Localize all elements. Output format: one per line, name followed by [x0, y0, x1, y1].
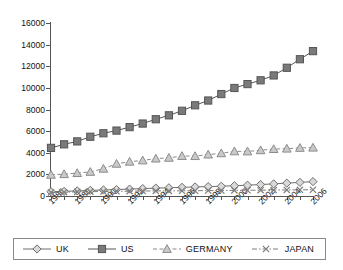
- data-point-marker: [204, 182, 212, 190]
- legend-item-us[interactable]: US: [87, 242, 134, 256]
- data-point-marker: [257, 77, 264, 84]
- data-point-marker: [152, 154, 161, 162]
- line-chart: 0200040006000800010000120001400016000 19…: [0, 0, 343, 270]
- legend-label-us: US: [121, 245, 134, 254]
- data-point-marker: [270, 72, 277, 79]
- data-point-marker: [204, 150, 213, 158]
- data-point-marker: [165, 112, 172, 119]
- data-point-marker: [87, 133, 94, 140]
- data-point-marker: [73, 187, 81, 195]
- data-point-marker: [178, 152, 187, 160]
- series-germany: [47, 143, 318, 178]
- data-point-marker: [112, 185, 120, 193]
- data-point-marker: [296, 56, 303, 63]
- data-point-marker: [139, 120, 146, 127]
- data-point-marker: [297, 187, 303, 193]
- data-point-marker: [152, 116, 159, 123]
- legend-key-uk-diamond-icon: [22, 242, 52, 256]
- data-point-marker: [191, 183, 199, 191]
- data-point-marker: [283, 179, 291, 187]
- legend-key-germany-triangle-icon: [152, 242, 182, 256]
- data-point-marker: [217, 149, 226, 157]
- data-point-marker: [296, 178, 304, 186]
- data-point-marker: [205, 97, 212, 104]
- data-point-marker: [309, 178, 317, 186]
- data-point-marker: [138, 156, 147, 164]
- data-point-marker: [230, 182, 238, 190]
- data-point-marker: [100, 130, 107, 137]
- data-point-marker: [47, 144, 54, 151]
- data-point-marker: [217, 182, 225, 190]
- data-point-marker: [86, 186, 94, 194]
- legend-label-japan: JAPAN: [285, 245, 314, 254]
- data-point-marker: [74, 138, 81, 145]
- legend-label-germany: GERMANY: [186, 245, 233, 254]
- data-point-marker: [231, 84, 238, 91]
- data-point-marker: [99, 186, 107, 194]
- data-point-marker: [178, 107, 185, 114]
- legend-item-japan[interactable]: JAPAN: [251, 242, 314, 256]
- data-point-marker: [244, 80, 251, 87]
- data-point-marker: [113, 127, 120, 134]
- legend-item-germany[interactable]: GERMANY: [152, 242, 233, 256]
- data-point-marker: [126, 124, 133, 131]
- data-point-marker: [191, 152, 200, 160]
- legend-key-japan-x-icon: [251, 242, 281, 256]
- data-point-marker: [99, 164, 108, 172]
- data-point-marker: [61, 141, 68, 148]
- data-point-marker: [60, 187, 68, 195]
- data-point-marker: [283, 64, 290, 71]
- data-point-marker: [218, 90, 225, 97]
- legend-key-us-square-icon: [87, 242, 117, 256]
- data-point-marker: [165, 154, 174, 162]
- data-point-marker: [309, 48, 316, 55]
- chart-legend: UK US GERMANY JAPAN: [13, 238, 326, 260]
- series-layer: [0, 0, 343, 270]
- series-us: [47, 48, 316, 152]
- legend-label-uk: UK: [56, 245, 69, 254]
- data-point-marker: [192, 102, 199, 109]
- data-point-marker: [112, 159, 121, 167]
- legend-item-uk[interactable]: UK: [22, 242, 69, 256]
- data-point-marker: [125, 157, 134, 165]
